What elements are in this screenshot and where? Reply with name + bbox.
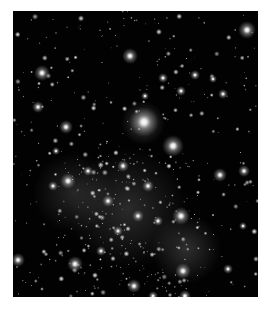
star bbox=[125, 248, 127, 250]
star bbox=[15, 32, 21, 38]
star bbox=[128, 276, 130, 278]
star bbox=[78, 206, 80, 208]
star bbox=[130, 17, 133, 20]
star bbox=[113, 226, 123, 236]
star bbox=[89, 264, 92, 267]
star bbox=[147, 275, 149, 277]
star bbox=[185, 243, 188, 246]
star bbox=[80, 94, 86, 100]
star bbox=[247, 55, 250, 58]
star bbox=[107, 21, 109, 23]
star bbox=[200, 68, 202, 70]
star bbox=[125, 277, 128, 280]
star bbox=[123, 24, 125, 26]
star bbox=[146, 89, 148, 91]
star bbox=[29, 128, 33, 132]
star bbox=[150, 274, 152, 276]
star bbox=[131, 240, 133, 242]
star bbox=[176, 13, 182, 19]
star bbox=[251, 228, 257, 234]
star bbox=[148, 155, 149, 156]
star bbox=[146, 281, 148, 283]
star bbox=[108, 82, 110, 84]
star bbox=[143, 268, 145, 270]
star bbox=[110, 246, 114, 250]
star bbox=[123, 17, 125, 19]
star bbox=[104, 188, 107, 191]
star bbox=[18, 89, 21, 92]
star bbox=[156, 64, 158, 66]
star bbox=[38, 42, 40, 44]
star bbox=[74, 92, 76, 94]
star bbox=[158, 242, 160, 244]
star bbox=[73, 55, 77, 59]
star bbox=[106, 97, 108, 99]
star bbox=[87, 206, 89, 208]
star bbox=[102, 223, 104, 225]
star bbox=[168, 204, 171, 207]
star bbox=[94, 100, 96, 102]
star bbox=[133, 19, 135, 21]
star bbox=[150, 154, 154, 158]
star bbox=[102, 122, 104, 124]
star bbox=[124, 256, 125, 257]
star bbox=[37, 86, 40, 89]
star bbox=[213, 249, 215, 251]
star bbox=[156, 246, 161, 251]
star bbox=[162, 135, 184, 157]
star bbox=[122, 208, 124, 210]
star bbox=[62, 200, 65, 203]
star bbox=[162, 113, 165, 116]
star bbox=[78, 223, 80, 225]
star bbox=[197, 275, 199, 277]
star bbox=[242, 161, 246, 165]
star bbox=[50, 82, 55, 87]
star bbox=[204, 266, 206, 268]
star bbox=[110, 256, 116, 262]
star bbox=[118, 146, 120, 148]
star bbox=[125, 181, 127, 183]
star bbox=[247, 130, 250, 133]
star bbox=[139, 198, 141, 200]
star bbox=[48, 181, 58, 191]
star bbox=[229, 224, 230, 225]
star bbox=[200, 266, 202, 268]
star bbox=[69, 62, 71, 64]
star bbox=[122, 272, 125, 275]
star bbox=[119, 266, 121, 268]
star bbox=[100, 155, 103, 158]
star bbox=[119, 283, 121, 285]
star bbox=[194, 56, 195, 57]
star bbox=[59, 220, 60, 221]
star bbox=[23, 71, 24, 72]
star bbox=[92, 102, 97, 107]
star bbox=[211, 129, 215, 133]
star bbox=[22, 280, 24, 282]
star bbox=[128, 157, 131, 160]
star bbox=[234, 184, 236, 186]
star bbox=[205, 294, 207, 296]
star bbox=[164, 286, 166, 288]
star bbox=[79, 124, 83, 128]
star bbox=[122, 48, 138, 64]
star bbox=[218, 89, 228, 99]
star bbox=[238, 165, 250, 177]
star bbox=[132, 257, 135, 260]
star bbox=[113, 150, 119, 156]
star bbox=[30, 203, 32, 205]
star bbox=[97, 287, 99, 289]
star bbox=[176, 86, 186, 96]
star bbox=[178, 97, 180, 99]
star bbox=[120, 280, 122, 282]
star bbox=[243, 285, 246, 288]
star bbox=[104, 161, 109, 166]
star bbox=[63, 237, 65, 239]
star bbox=[179, 167, 182, 170]
star bbox=[243, 14, 245, 16]
star bbox=[169, 38, 171, 40]
star bbox=[95, 224, 99, 228]
star bbox=[171, 194, 174, 197]
star bbox=[119, 253, 121, 255]
star bbox=[154, 273, 156, 275]
star bbox=[94, 199, 96, 201]
